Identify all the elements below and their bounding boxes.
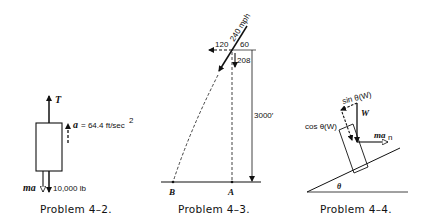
acceleration-label: a: [73, 119, 78, 130]
vertical-label: 208: [237, 56, 251, 65]
horizontal-label: 120: [215, 40, 229, 49]
top-label: 60: [240, 40, 249, 49]
caption-problem-4-2: Problem 4–2.: [40, 203, 112, 215]
problem-4-4-diagram: θ W sin θ(W) cos θ(W) ma n: [305, 90, 408, 192]
caption-problem-4-4: Problem 4–4.: [320, 203, 392, 215]
caption-problem-4-3: Problem 4–3.: [178, 203, 250, 215]
problem-4-3-diagram: 240 mph 120 60 208 3000′ B A: [161, 12, 274, 197]
weight-label: 10,000 lb: [53, 184, 86, 193]
inertia-subscript: n: [388, 133, 392, 142]
mass-block: [36, 123, 62, 171]
point-a-label: A: [227, 187, 234, 197]
problem-4-2-diagram: T a = 64.4 ft/sec 2 ma 10,000 lb: [23, 94, 134, 193]
point-b-label: B: [168, 187, 175, 197]
acceleration-value: = 64.4 ft/sec: [81, 121, 125, 130]
weight-label: W: [361, 108, 370, 118]
height-label: 3000′: [254, 111, 274, 120]
angle-label: θ: [337, 182, 342, 191]
acceleration-exponent: 2: [129, 116, 134, 125]
cos-component-label: cos θ(W): [305, 122, 337, 131]
trajectory-curve: [173, 75, 218, 182]
tension-label: T: [55, 94, 62, 105]
inertia-label: ma: [374, 130, 386, 140]
inertia-label: ma: [23, 182, 36, 193]
cos-component-arrow: [342, 112, 352, 140]
incline-surface: [307, 148, 400, 192]
